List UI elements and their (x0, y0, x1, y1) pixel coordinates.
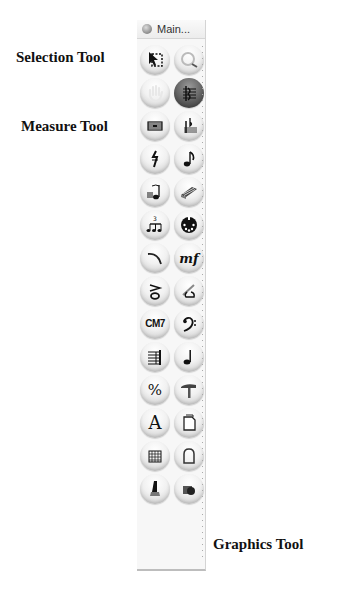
articulation-tool-button[interactable] (140, 276, 170, 306)
accent-note-icon (144, 280, 166, 302)
measure-tool-callout: Measure Tool (21, 118, 108, 135)
simple-entry-tool-button[interactable] (174, 144, 204, 174)
clef-tool-button[interactable] (174, 309, 204, 339)
main-tool-palette: Main... (137, 20, 206, 571)
flat-key-icon (178, 115, 200, 137)
tool-grid: 3 mf (140, 45, 204, 504)
magnifier-icon (178, 49, 200, 71)
midi-tool-button[interactable] (174, 210, 204, 240)
mass-edit-tool-button[interactable] (174, 375, 204, 405)
tuplet-tool-button[interactable]: 3 (140, 210, 170, 240)
hyperscribe-tool-button[interactable] (174, 177, 204, 207)
svg-text:3: 3 (153, 215, 157, 222)
measure-icon (144, 115, 166, 137)
keyboard-icon (178, 181, 200, 203)
selection-tool-callout: Selection Tool (16, 49, 105, 66)
arch-frame-icon (178, 445, 200, 467)
tuplet-icon: 3 (144, 214, 166, 236)
expression-tool-button[interactable]: mf (174, 243, 204, 273)
staff-grid-tool-button[interactable] (140, 342, 170, 372)
text-tool-button[interactable]: A (140, 408, 170, 438)
percent-icon: % (148, 383, 162, 398)
hammer-icon (178, 379, 200, 401)
quarter-note-icon (178, 346, 200, 368)
chord-tool-button[interactable]: CM7 (140, 309, 170, 339)
staff-lines-icon (144, 346, 166, 368)
key-signature-tool-button[interactable] (174, 111, 204, 141)
frame-tool-button[interactable] (174, 441, 204, 471)
eighth-note-icon (178, 148, 200, 170)
camera-graphics-icon (178, 478, 200, 500)
speedy-note-icon (144, 181, 166, 203)
special-tools-tool-button[interactable] (174, 276, 204, 306)
hand-grabber-tool-button[interactable] (140, 78, 170, 108)
page-icon (178, 412, 200, 434)
close-icon[interactable] (142, 24, 152, 34)
measure-tool-button[interactable] (140, 111, 170, 141)
midi-plug-icon (178, 214, 200, 236)
time-signature-tool-button[interactable] (140, 144, 170, 174)
selection-tool-button[interactable] (140, 45, 170, 75)
pen-note-icon (178, 280, 200, 302)
repeat-tool-button[interactable]: % (140, 375, 170, 405)
pen-nib-icon (144, 478, 166, 500)
note-mover-tool-button[interactable] (174, 342, 204, 372)
staff-tool-button[interactable] (174, 78, 204, 108)
graphics-tool-button[interactable] (174, 474, 204, 504)
time-signature-icon (144, 148, 166, 170)
speedy-entry-tool-button[interactable] (140, 177, 170, 207)
mf-dynamic-icon: mf (179, 252, 198, 265)
palette-title: Main... (157, 23, 190, 35)
lyrics-grid-tool-button[interactable] (140, 441, 170, 471)
page-layout-tool-button[interactable] (174, 408, 204, 438)
smart-shape-tool-button[interactable] (140, 243, 170, 273)
text-a-icon: A (149, 414, 162, 432)
hand-icon (144, 82, 166, 104)
arrow-marquee-icon (144, 49, 166, 71)
ossia-tool-button[interactable] (140, 474, 170, 504)
staff-clef-icon (178, 82, 200, 104)
palette-titlebar[interactable]: Main... (137, 20, 205, 39)
bass-clef-icon (178, 313, 200, 335)
zoom-tool-button[interactable] (174, 45, 204, 75)
slur-icon (144, 247, 166, 269)
graphics-tool-callout: Graphics Tool (213, 536, 303, 553)
grid-icon (144, 445, 166, 467)
chord-symbol-icon: CM7 (145, 319, 165, 329)
